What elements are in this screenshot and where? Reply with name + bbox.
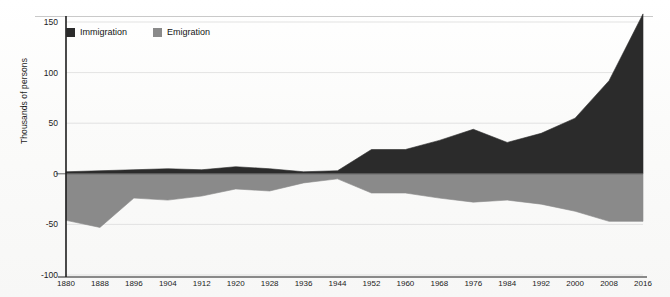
area-series-immigration — [66, 14, 643, 174]
y-tick-label: 150 — [28, 17, 58, 27]
legend-label-immigration: Immigration — [80, 28, 127, 37]
x-tick-label: 1880 — [49, 279, 83, 288]
x-tick-label: 2008 — [592, 279, 626, 288]
y-tick-label: 100 — [28, 68, 58, 78]
area-chart-plot — [0, 0, 670, 297]
y-axis-title: Thousands of persons — [19, 31, 29, 171]
legend-swatch-immigration — [66, 28, 75, 37]
x-tick-label: 2016 — [626, 279, 660, 288]
area-series-emigration — [66, 174, 643, 228]
x-tick-label: 1976 — [456, 279, 490, 288]
x-tick-label: 2000 — [558, 279, 592, 288]
x-tick-label: 1992 — [524, 279, 558, 288]
x-tick-label: 1952 — [354, 279, 388, 288]
x-tick-label: 1968 — [422, 279, 456, 288]
y-tick-label: 50 — [28, 118, 58, 128]
x-tick-label: 1888 — [83, 279, 117, 288]
chart-container: Thousands of persons 150100500-50-100 18… — [0, 0, 670, 297]
legend-item-immigration: Immigration — [66, 28, 127, 37]
y-tick-label: -50 — [28, 219, 58, 229]
x-tick-label: 1904 — [151, 279, 185, 288]
y-tick-label: 0 — [28, 169, 58, 179]
x-tick-label: 1944 — [321, 279, 355, 288]
legend-swatch-emigration — [153, 28, 162, 37]
legend-item-emigration: Emigration — [153, 28, 210, 37]
x-tick-label: 1912 — [185, 279, 219, 288]
series-areas-group — [66, 14, 643, 228]
x-tick-label: 1984 — [490, 279, 524, 288]
x-tick-label: 1896 — [117, 279, 151, 288]
legend-label-emigration: Emigration — [167, 28, 210, 37]
x-tick-label: 1928 — [253, 279, 287, 288]
x-tick-label: 1920 — [219, 279, 253, 288]
x-tick-label: 1960 — [388, 279, 422, 288]
x-tick-label: 1936 — [287, 279, 321, 288]
chart-legend: Immigration Emigration — [66, 28, 210, 37]
